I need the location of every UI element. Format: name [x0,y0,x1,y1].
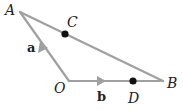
label-b-point: B [166,75,177,91]
label-a-point: A [3,2,15,18]
arrow-b-icon [97,76,106,86]
label-vector-a: a [27,40,36,55]
triangle-diagram: A C O B D a b [0,0,183,110]
point-d [129,77,136,84]
label-c-point: C [67,14,78,30]
label-o-point: O [54,80,66,96]
point-c [61,30,68,37]
label-d-point: D [127,90,139,106]
label-vector-b: b [97,89,106,104]
